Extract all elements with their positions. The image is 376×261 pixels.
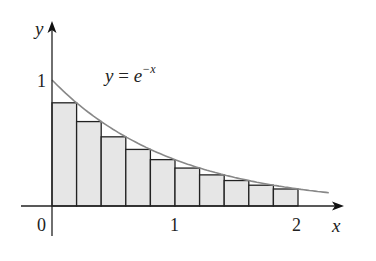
bar-7 <box>224 181 249 206</box>
function-label: y = e−x <box>103 62 156 86</box>
bar-0 <box>52 103 77 206</box>
bar-1 <box>77 122 102 206</box>
bar-8 <box>249 185 274 206</box>
bar-3 <box>126 149 151 206</box>
bar-6 <box>200 175 225 206</box>
x-tick-2: 2 <box>292 215 301 235</box>
bar-4 <box>150 160 175 206</box>
bar-5 <box>175 168 200 206</box>
riemann-sum-chart: y x 0 1 2 1 y = e−x <box>0 0 376 261</box>
x-axis-label: x <box>331 215 341 236</box>
bar-9 <box>273 189 298 206</box>
bar-2 <box>101 137 126 206</box>
x-tick-1: 1 <box>170 215 179 235</box>
y-axis-label: y <box>33 18 44 39</box>
y-tick-1: 1 <box>37 71 46 91</box>
bars <box>52 103 298 206</box>
x-tick-0: 0 <box>37 215 46 235</box>
